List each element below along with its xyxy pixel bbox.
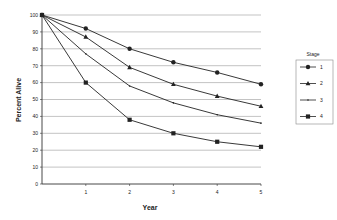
series-stage-3 (41, 14, 262, 124)
square-marker-icon (128, 118, 132, 122)
series-line (42, 15, 261, 147)
circle-marker-icon (306, 65, 310, 69)
dot-marker-icon (129, 85, 131, 87)
gridlines (40, 15, 261, 184)
dot-marker-icon (216, 114, 218, 116)
legend-item-stage-4: 4 (300, 113, 323, 119)
dot-marker-icon (173, 102, 175, 104)
legend-label: 4 (320, 113, 323, 119)
y-tick-label: 10 (32, 164, 38, 170)
legend-label: 3 (320, 97, 323, 103)
series-line (42, 15, 261, 106)
x-tick-label: 2 (128, 189, 131, 195)
legend-label: 1 (320, 64, 323, 70)
legend: Stage 1234 (296, 51, 333, 124)
y-tick-labels: 0102030405060708090100 (30, 12, 39, 187)
survival-chart: 0102030405060708090100 12345 Percent Ali… (0, 0, 337, 220)
circle-marker-icon (259, 82, 263, 86)
series-stage-4 (40, 13, 263, 149)
data-series (40, 12, 264, 149)
axes (42, 15, 261, 186)
x-tick-label: 5 (260, 189, 263, 195)
circle-marker-icon (171, 60, 175, 64)
dot-marker-icon (85, 53, 87, 55)
legend-title: Stage (306, 51, 319, 57)
y-tick-label: 60 (32, 79, 38, 85)
square-marker-icon (40, 13, 44, 17)
square-marker-icon (215, 140, 219, 144)
x-axis-title: Year (143, 204, 158, 211)
circle-marker-icon (84, 26, 88, 30)
y-axis-title: Percent Alive (15, 78, 22, 122)
square-marker-icon (171, 131, 175, 135)
legend-item-stage-1: 1 (300, 64, 323, 70)
square-marker-icon (84, 81, 88, 85)
y-tick-label: 80 (32, 46, 38, 52)
series-line (42, 15, 261, 84)
square-marker-icon (306, 114, 310, 118)
y-tick-label: 70 (32, 63, 38, 69)
y-tick-label: 50 (32, 96, 38, 102)
legend-item-stage-3: 3 (300, 97, 323, 103)
y-tick-label: 40 (32, 113, 38, 119)
legend-label: 2 (320, 80, 323, 86)
x-tick-label: 4 (216, 189, 219, 195)
dot-marker-icon (260, 122, 262, 124)
dot-marker-icon (307, 99, 309, 101)
y-tick-label: 100 (30, 12, 39, 18)
series-stage-2 (40, 12, 264, 108)
x-tick-label: 3 (172, 189, 175, 195)
circle-marker-icon (215, 70, 219, 74)
legend-item-stage-2: 2 (300, 80, 323, 86)
y-tick-label: 20 (32, 147, 38, 153)
square-marker-icon (259, 145, 263, 149)
x-tick-label: 1 (84, 189, 87, 195)
circle-marker-icon (127, 47, 131, 51)
legend-box (296, 60, 333, 124)
y-tick-label: 30 (32, 130, 38, 136)
x-tick-labels: 12345 (84, 189, 262, 195)
y-tick-label: 0 (35, 181, 38, 187)
y-tick-label: 90 (32, 29, 38, 35)
